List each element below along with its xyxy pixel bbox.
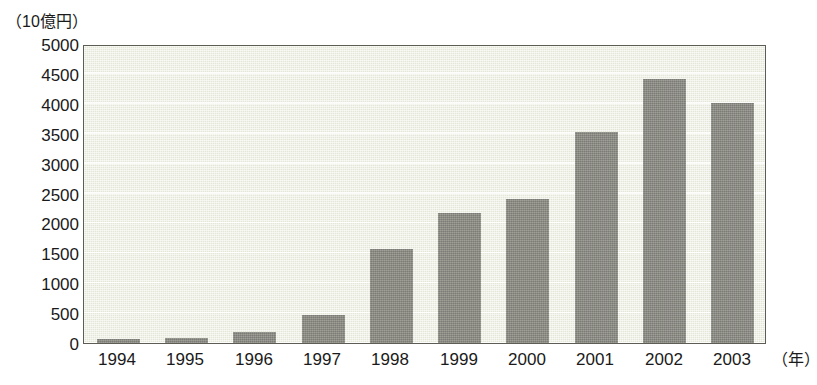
y-axis-tick-label: 3500: [3, 127, 79, 144]
x-axis-tick-label: 2002: [630, 350, 698, 370]
y-axis-tick-label: 500: [3, 306, 79, 323]
y-axis-tick-label: 2000: [3, 216, 79, 233]
y-axis-unit-label: （10億円）: [6, 8, 88, 32]
y-axis-tick-label: 1500: [3, 246, 79, 263]
bar: [97, 339, 140, 343]
y-axis-tick-label: 4000: [3, 97, 79, 114]
y-axis-tick-label: 1000: [3, 276, 79, 293]
x-axis-tick-label: 1995: [151, 350, 219, 370]
bar: [302, 315, 345, 343]
y-axis-tick-label: 3000: [3, 157, 79, 174]
bar: [438, 213, 481, 343]
x-axis-unit-label: （年）: [772, 350, 817, 370]
x-axis-tick-label: 2003: [698, 350, 766, 370]
y-axis-tick-label: 4500: [3, 67, 79, 84]
plot-area: [83, 45, 766, 344]
x-axis-tick-label: 1999: [425, 350, 493, 370]
x-axis-tick-label: 1997: [288, 350, 356, 370]
gridline: [84, 73, 765, 74]
x-axis-tick-label: 2001: [561, 350, 629, 370]
y-axis-tick-label: 2500: [3, 187, 79, 204]
bar: [506, 199, 549, 343]
x-axis-tick-label: 1996: [220, 350, 288, 370]
y-axis-tick-labels: 5000450040003500300025002000150010005000: [0, 45, 79, 344]
x-axis-tick-label: 1998: [356, 350, 424, 370]
bar: [575, 132, 618, 343]
bar: [643, 79, 686, 343]
bar: [711, 103, 754, 343]
bar-chart-figure: （10億円） 500045004000350030002500200015001…: [0, 0, 817, 385]
bar: [370, 249, 413, 343]
x-axis-tick-label: 2000: [493, 350, 561, 370]
bar: [233, 332, 276, 343]
x-axis-tick-labels: 1994199519961997199819992000200120022003: [83, 350, 766, 376]
bar: [165, 338, 208, 343]
x-axis-tick-label: 1994: [83, 350, 151, 370]
y-axis-tick-label: 0: [3, 336, 79, 353]
y-axis-tick-label: 5000: [3, 37, 79, 54]
